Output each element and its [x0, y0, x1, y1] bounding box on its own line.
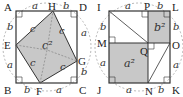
point-label-e: E: [4, 39, 11, 51]
right-angle-mark: [71, 11, 77, 17]
area-label-c-squared: c²: [42, 39, 53, 52]
segment-label-pl: b: [157, 0, 163, 11]
right-angle-mark: [164, 77, 170, 83]
point-label-n: N: [145, 85, 153, 97]
segment-label-lo: b: [173, 21, 179, 32]
segment-label-cf: a: [56, 84, 62, 95]
point-label-f: F: [36, 85, 42, 97]
vertex-label-l: L: [172, 1, 179, 13]
segment-label-hd: b: [63, 0, 69, 11]
inner-side-label: c: [30, 57, 36, 68]
segment-label-mi: b: [100, 21, 106, 32]
point-label-m: M: [97, 37, 107, 49]
vertex-label-j: J: [97, 84, 102, 96]
point-label-h: H: [48, 0, 56, 12]
segment-label-ea: b: [7, 21, 13, 32]
inner-side-label: c: [59, 25, 65, 36]
area-label-a-squared: a²: [124, 57, 135, 70]
area-label-b-squared: b²: [154, 21, 165, 34]
inner-side-label: c: [30, 23, 36, 34]
point-label-q: Q: [140, 45, 148, 57]
inner-side-label: c: [60, 61, 66, 72]
vertex-label-b: B: [4, 84, 11, 96]
segment-label-gc: b: [81, 66, 87, 77]
point-label-o: O: [172, 39, 180, 51]
segment-label-kn: b: [158, 84, 164, 95]
vertex-label-a: A: [4, 1, 12, 13]
point-label-p: P: [144, 0, 150, 12]
segment-label-jm: a: [100, 57, 106, 68]
segment-label-ok: a: [173, 59, 179, 70]
vertex-label-d: D: [79, 1, 87, 13]
vertex-label-c: C: [79, 84, 86, 96]
left-figure: A D B C H E G F a b a b a b a b c c c c …: [3, 0, 91, 97]
segment-label-dg: a: [81, 27, 87, 38]
segment-label-fb: b: [24, 84, 30, 95]
right-angle-mark: [16, 11, 22, 17]
vertex-label-k: K: [172, 84, 180, 96]
right-angle-mark: [16, 77, 22, 83]
segment-label-ip: a: [125, 0, 131, 11]
segment-label-nj: a: [126, 84, 132, 95]
segment-label-ah: a: [32, 0, 38, 11]
segment-label-be: a: [7, 59, 13, 70]
vertex-label-i: I: [97, 1, 101, 13]
right-angle-mark: [109, 37, 115, 43]
right-angle-mark: [148, 43, 154, 49]
pythagorean-proof-diagram: A D B C H E G F a b a b a b a b c c c c …: [0, 0, 183, 97]
right-figure: I L J K P M O N Q a b b a b a a b b² a²: [95, 0, 183, 97]
